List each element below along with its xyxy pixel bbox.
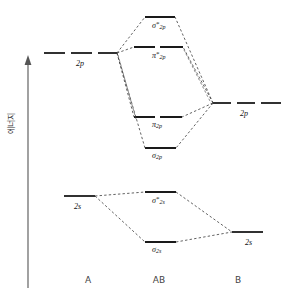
label-sigma-2p: σ2p <box>152 152 162 160</box>
column-label-b: B <box>228 276 248 285</box>
label-pi-2p: π2p <box>152 121 162 129</box>
label-sigma-star-2s: σ*2s <box>152 196 165 205</box>
column-label-ab: AB <box>148 276 170 285</box>
energy-axis-label: 에너지 <box>5 98 16 150</box>
energy-axis <box>25 55 32 288</box>
label-sigma-star-2p: σ*2p <box>152 21 165 30</box>
label-sigma-2s: σ2s <box>152 246 161 254</box>
label-pi-star-2p: π*2p <box>152 51 166 60</box>
mo-diagram-figure: 에너지 2p 2s 2p 2s σ*2p π*2p π2p σ2p σ*2s σ… <box>0 0 285 294</box>
column-label-a: A <box>78 276 98 285</box>
label-b-2p: 2p <box>240 110 248 118</box>
label-b-2s: 2s <box>245 239 252 247</box>
mo-diagram-canvas <box>0 0 285 294</box>
label-a-2p: 2p <box>76 60 84 68</box>
label-a-2s: 2s <box>74 203 81 211</box>
correlation-lines-2p <box>117 17 213 148</box>
